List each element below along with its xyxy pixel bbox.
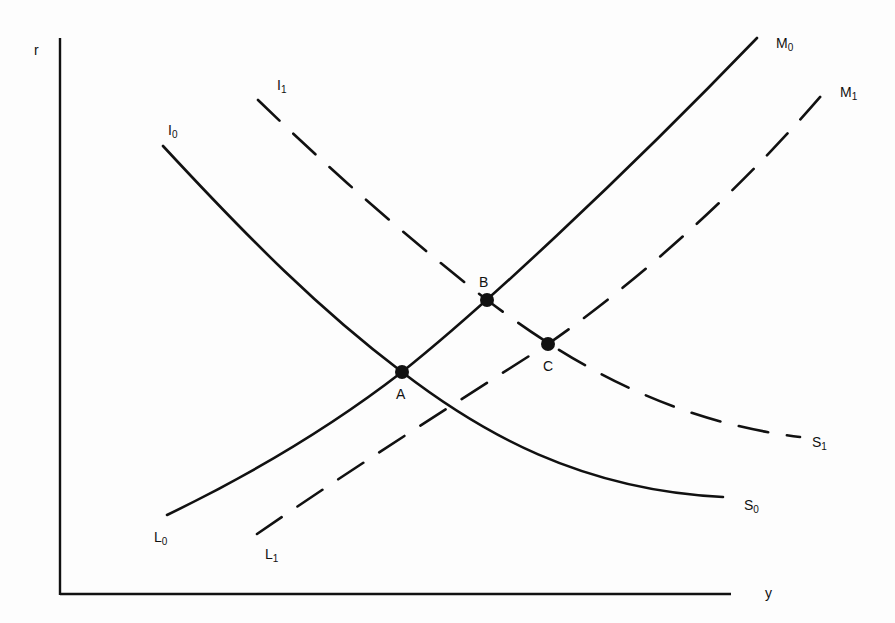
x-axis-label: y bbox=[765, 585, 772, 601]
curve-i1s1 bbox=[258, 100, 800, 437]
curve-i0s0 bbox=[163, 146, 723, 497]
is-lm-diagram: r y I0 S0 I1 S1 L0 M0 L1 M1 A B C bbox=[0, 0, 895, 623]
point-a-marker bbox=[395, 365, 409, 379]
label-l1: L1 bbox=[265, 546, 279, 564]
label-i0: I0 bbox=[168, 122, 178, 140]
curve-l0m0 bbox=[167, 38, 757, 515]
point-c-marker bbox=[541, 337, 555, 351]
point-b-label: B bbox=[479, 274, 488, 290]
label-s0: S0 bbox=[744, 497, 759, 515]
curve-l1m1 bbox=[257, 96, 821, 534]
point-b-marker bbox=[480, 293, 494, 307]
label-m0: M0 bbox=[776, 35, 794, 53]
y-axis-label: r bbox=[34, 42, 39, 58]
label-i1: I1 bbox=[277, 77, 287, 95]
label-m1: M1 bbox=[840, 84, 858, 102]
label-s1: S1 bbox=[812, 434, 827, 452]
point-a-label: A bbox=[396, 386, 406, 402]
point-c-label: C bbox=[543, 358, 553, 374]
label-l0: L0 bbox=[154, 529, 168, 547]
